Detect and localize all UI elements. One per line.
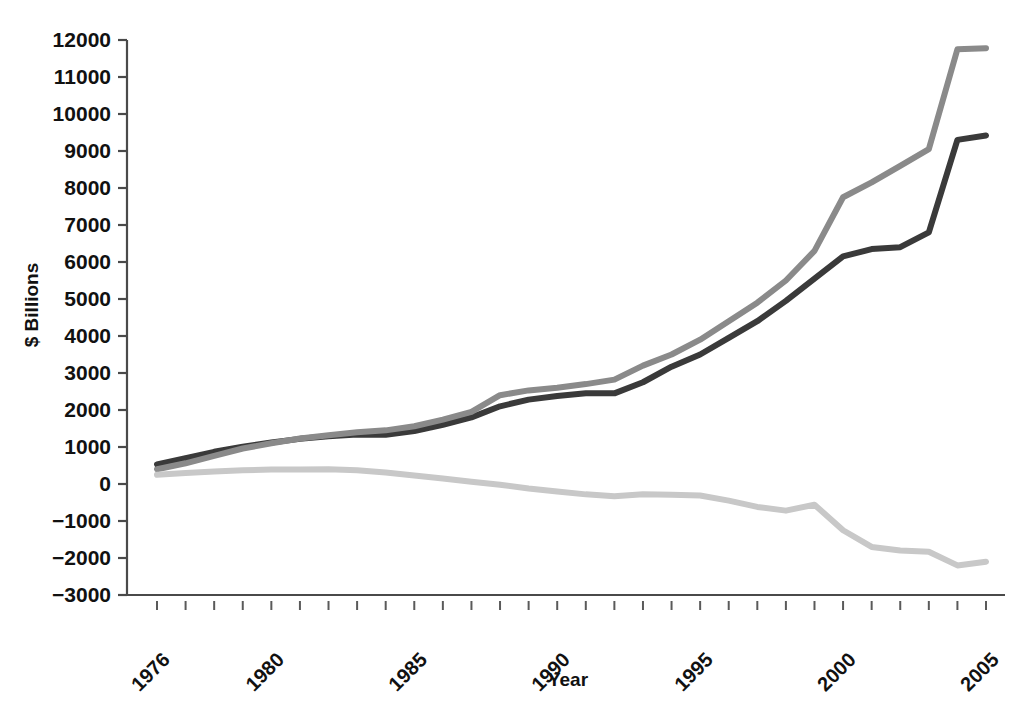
y-tick-label: 4000 [64, 324, 111, 347]
y-tick-label: 8000 [64, 176, 111, 199]
y-axis-title: $ Billions [21, 263, 42, 347]
y-tick-label: 10000 [53, 102, 111, 125]
y-tick-label: −3000 [52, 583, 111, 606]
y-tick-label: 0 [99, 472, 111, 495]
chart-container: 1200011000100009000800070006000500040003… [0, 0, 1025, 710]
y-tick-label: −2000 [52, 546, 111, 569]
y-tick-label: 12000 [53, 28, 111, 51]
y-tick-label: 5000 [64, 287, 111, 310]
y-tick-label: 2000 [64, 398, 111, 421]
line-chart-figure: 1200011000100009000800070006000500040003… [0, 0, 1025, 710]
y-tick-label: 9000 [64, 139, 111, 162]
y-tick-label: 3000 [64, 361, 111, 384]
x-axis-title: Year [548, 669, 589, 690]
y-tick-label: 11000 [54, 65, 111, 88]
y-tick-label: 1000 [64, 435, 111, 458]
y-tick-label: 6000 [64, 250, 111, 273]
y-tick-label: −1000 [52, 509, 111, 532]
y-tick-label: 7000 [64, 213, 111, 236]
